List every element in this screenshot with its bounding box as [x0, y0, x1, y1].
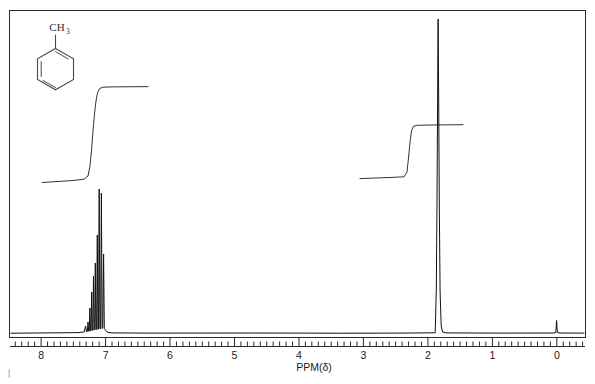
axis-tick-label: 7: [103, 349, 109, 361]
axis-title: PPM(δ): [296, 361, 332, 373]
axis-tick-label: 1: [489, 349, 495, 361]
axis-tick-label: 0: [554, 349, 560, 361]
methyl-label: CH: [49, 21, 64, 33]
axis-tick-label: 4: [296, 349, 302, 361]
nmr-spectrum-figure: CH 3: [0, 0, 595, 384]
methyl-label-subscript: 3: [66, 27, 70, 36]
benzene-ring: [38, 49, 74, 90]
axis-tick-labels: 876543210: [38, 349, 560, 361]
axis-tick-label: 8: [38, 349, 44, 361]
integral-curve-methyl: [360, 125, 463, 179]
axis-tick-label: 6: [167, 349, 173, 361]
caption-mark: |: [8, 366, 10, 378]
integral-curve-aromatic: [42, 87, 148, 183]
spectrum-trace: [11, 19, 584, 333]
spectrum-canvas: CH 3: [0, 0, 595, 384]
axis-tick-label: 2: [425, 349, 431, 361]
axis-tick-label: 5: [232, 349, 238, 361]
axis-tick-label: 3: [360, 349, 366, 361]
toluene-structure-icon: CH 3: [38, 21, 74, 90]
x-axis: 876543210 PPM(δ): [10, 338, 585, 373]
